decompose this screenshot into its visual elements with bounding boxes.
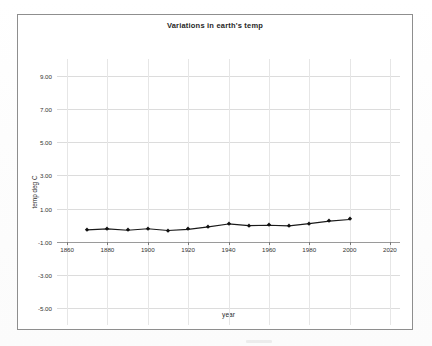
x-gridline: [107, 59, 108, 325]
y-axis-title-container: temp deg C: [36, 59, 46, 325]
x-gridline: [188, 59, 189, 325]
x-tick-label: 1960: [262, 246, 276, 253]
x-tick-mark: [148, 242, 149, 245]
x-tick-mark: [107, 242, 108, 245]
x-tick-mark: [309, 242, 310, 245]
scan-artifact: [246, 340, 272, 343]
y-tick-label: 9.00: [40, 72, 52, 79]
x-gridline: [350, 59, 351, 325]
x-gridline: [390, 59, 391, 325]
y-tick-label: -1.00: [38, 238, 52, 245]
x-gridline: [309, 59, 310, 325]
x-gridline: [67, 59, 68, 325]
x-tick-mark: [188, 242, 189, 245]
y-tick-label: -5.00: [38, 305, 52, 312]
x-tick-mark: [269, 242, 270, 245]
x-tick-mark: [229, 242, 230, 245]
chart-title: Variations in earth's temp: [18, 21, 412, 30]
chart-frame: Variations in earth's temp temp deg C ye…: [17, 14, 413, 330]
x-tick-label: 1860: [60, 246, 74, 253]
x-tick-label: 1880: [101, 246, 115, 253]
x-tick-label: 2020: [383, 246, 397, 253]
y-tick-label: 3.00: [40, 172, 52, 179]
x-tick-label: 1920: [181, 246, 195, 253]
x-tick-label: 1900: [141, 246, 155, 253]
x-gridline: [148, 59, 149, 325]
x-tick-label: 1980: [302, 246, 316, 253]
y-axis-title: temp deg C: [31, 175, 38, 208]
plot-area: 9.007.005.003.001.00-1.00-3.00-5.0018601…: [57, 59, 400, 325]
x-tick-label: 1940: [222, 246, 236, 253]
y-tick-label: 7.00: [40, 105, 52, 112]
y-tick-label: 5.00: [40, 139, 52, 146]
x-tick-label: 2000: [343, 246, 357, 253]
x-tick-mark: [390, 242, 391, 245]
x-tick-mark: [67, 242, 68, 245]
screenshot-page: Variations in earth's temp temp deg C ye…: [0, 0, 432, 346]
y-tick-label: 1.00: [40, 205, 52, 212]
x-tick-mark: [350, 242, 351, 245]
x-gridline: [229, 59, 230, 325]
x-gridline: [269, 59, 270, 325]
y-tick-label: -3.00: [38, 272, 52, 279]
